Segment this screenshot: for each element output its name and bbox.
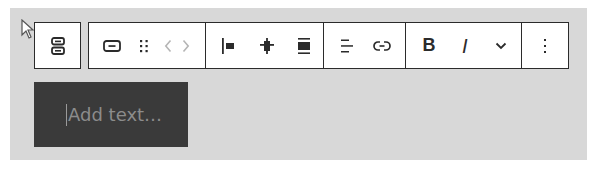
justify-stretch-icon (296, 37, 312, 55)
mouse-cursor-icon (21, 19, 35, 39)
chevron-right-icon (182, 39, 190, 53)
align-text-button[interactable] (330, 23, 364, 68)
group-stack-icon (51, 37, 65, 55)
italic-icon: I (462, 35, 468, 57)
button-placeholder-text: Add text… (68, 104, 162, 125)
link-icon (373, 40, 391, 52)
more-formatting-button[interactable] (482, 23, 520, 68)
text-controls-group (324, 23, 406, 68)
block-toolbar: B I (88, 22, 569, 69)
button-block-icon (103, 40, 121, 52)
select-parent-block-button[interactable] (34, 22, 81, 69)
bold-icon: B (423, 35, 436, 56)
button-block-type-button[interactable] (95, 23, 129, 68)
options-group (522, 23, 568, 68)
options-button[interactable] (525, 23, 565, 68)
justify-stretch-button[interactable] (285, 23, 323, 68)
drag-handle-icon (139, 39, 149, 53)
alignment-group (206, 23, 324, 68)
justify-center-button[interactable] (248, 23, 286, 68)
text-caret (66, 104, 67, 126)
formatting-group: B I (406, 23, 522, 68)
drag-handle[interactable] (129, 23, 159, 68)
bold-button[interactable]: B (410, 23, 448, 68)
move-right-button[interactable] (177, 23, 195, 68)
justify-center-icon (259, 37, 275, 55)
chevron-down-icon (495, 42, 507, 50)
button-block-text-field[interactable]: Add text… (34, 82, 188, 147)
move-left-button[interactable] (159, 23, 177, 68)
align-text-icon (339, 38, 355, 54)
chevron-left-icon (164, 39, 172, 53)
more-vertical-icon (543, 38, 547, 54)
justify-left-icon (221, 37, 237, 55)
italic-button[interactable]: I (448, 23, 482, 68)
justify-left-button[interactable] (210, 23, 248, 68)
link-button[interactable] (364, 23, 400, 68)
block-controls-group (89, 23, 206, 68)
